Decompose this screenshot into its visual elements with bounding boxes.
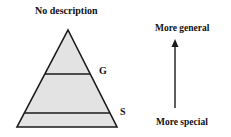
diagram-title: No description — [35, 6, 98, 16]
level-label-s: S — [120, 107, 126, 117]
arrow-top-label: More general — [155, 24, 209, 34]
diagram-canvas: No description G S More general More spe… — [0, 0, 231, 137]
arrow-up-icon — [172, 39, 179, 47]
arrow-bottom-label: More special — [156, 118, 208, 128]
level-label-g: G — [99, 66, 107, 76]
